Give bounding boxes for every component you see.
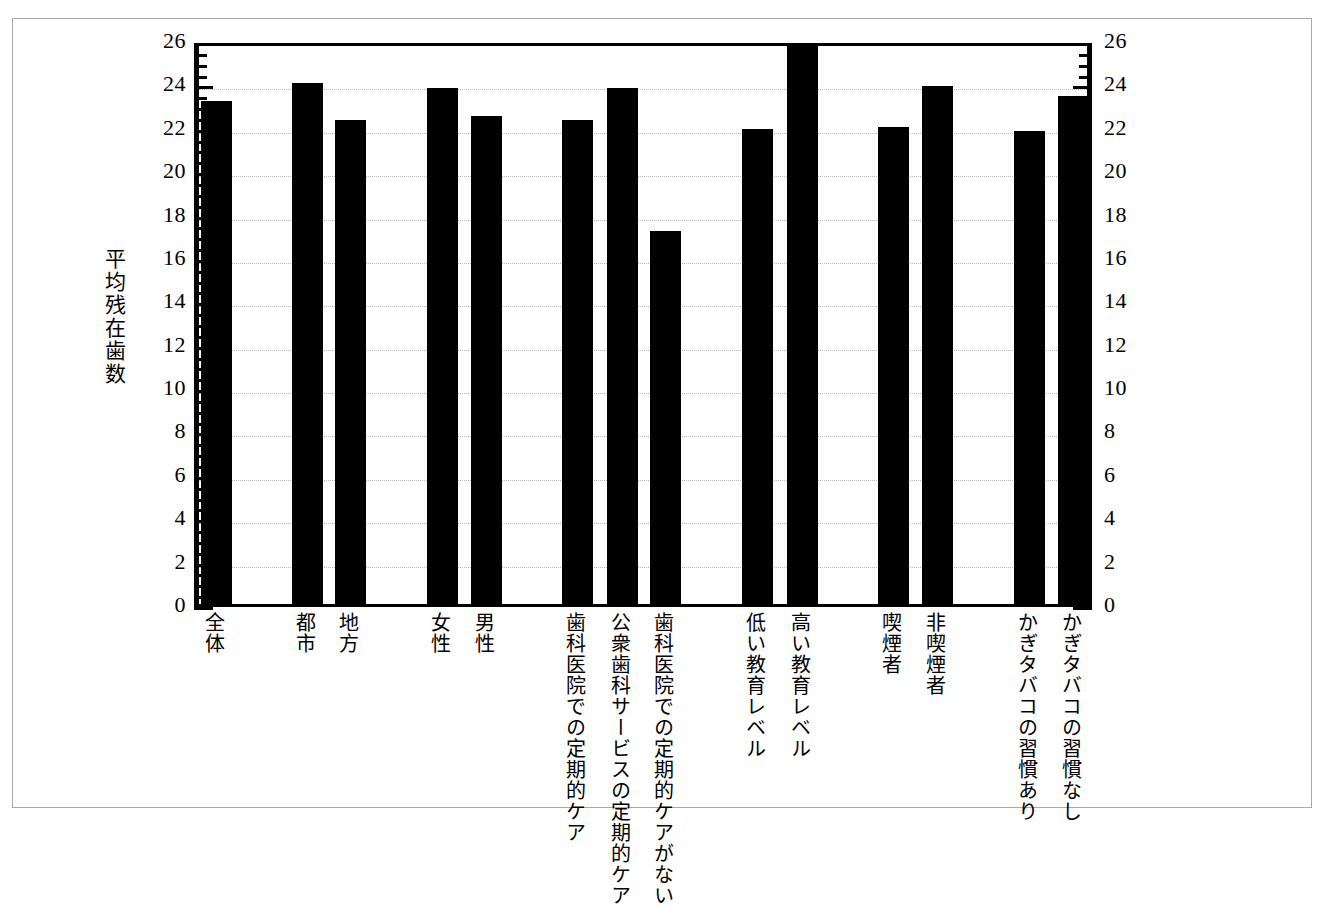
- axis-minor-tick: [1079, 54, 1092, 57]
- axis-major-tick: [194, 390, 213, 393]
- bar: [201, 101, 232, 604]
- axis-major-tick: [194, 130, 213, 133]
- axis-minor-tick: [1079, 574, 1092, 577]
- x-axis-category-label: 低い教育レベル: [739, 612, 765, 759]
- axis-minor-tick: [1079, 455, 1092, 458]
- axis-minor-tick: [194, 466, 207, 469]
- bar: [427, 88, 458, 604]
- axis-minor-tick: [1079, 368, 1092, 371]
- axis-major-tick: [194, 260, 213, 263]
- y-axis-tick-label: 18: [146, 204, 186, 226]
- axis-minor-tick: [194, 249, 207, 252]
- axis-minor-tick: [1079, 65, 1092, 68]
- axis-major-tick: [194, 520, 213, 523]
- axis-major-tick: [194, 173, 213, 176]
- axis-minor-tick: [1079, 227, 1092, 230]
- y-axis-tick-label: 10: [1104, 377, 1144, 399]
- x-axis-category-label: 非喫煙者: [919, 612, 945, 696]
- axis-minor-tick: [1079, 249, 1092, 252]
- axis-minor-tick: [1079, 412, 1092, 415]
- axis-minor-tick: [1079, 325, 1092, 328]
- axis-major-tick: [194, 347, 213, 350]
- axis-minor-tick: [194, 97, 207, 100]
- axis-minor-tick: [1079, 542, 1092, 545]
- axis-minor-tick: [194, 314, 207, 317]
- axis-major-tick: [1073, 347, 1092, 350]
- gridline: [199, 523, 1087, 524]
- axis-minor-tick: [1079, 379, 1092, 382]
- gridline: [199, 220, 1087, 221]
- x-axis-category-label: 高い教育レベル: [784, 612, 810, 759]
- axis-minor-tick: [1079, 423, 1092, 426]
- axis-minor-tick: [194, 379, 207, 382]
- y-axis-tick-label: 8: [146, 420, 186, 442]
- axis-minor-tick: [1079, 596, 1092, 599]
- bar: [922, 86, 953, 604]
- axis-major-tick: [1073, 607, 1092, 610]
- axis-minor-tick: [194, 412, 207, 415]
- gridline: [199, 567, 1087, 568]
- y-axis-tick-label: 14: [146, 290, 186, 312]
- axis-major-tick: [194, 303, 213, 306]
- axis-minor-tick: [1079, 585, 1092, 588]
- axis-minor-tick: [1079, 76, 1092, 79]
- axis-minor-tick: [194, 585, 207, 588]
- axis-minor-tick: [194, 54, 207, 57]
- axis-minor-tick: [1079, 314, 1092, 317]
- axis-major-tick: [1073, 477, 1092, 480]
- y-axis-tick-label: 8: [1104, 420, 1144, 442]
- axis-major-tick: [194, 217, 213, 220]
- axis-minor-tick: [194, 206, 207, 209]
- axis-minor-tick: [1079, 151, 1092, 154]
- axis-minor-tick: [194, 76, 207, 79]
- bar: [1014, 131, 1045, 604]
- axis-minor-tick: [1079, 499, 1092, 502]
- axis-minor-tick: [194, 368, 207, 371]
- gridline: [199, 89, 1087, 90]
- axis-minor-tick: [1079, 401, 1092, 404]
- y-axis-tick-label: 22: [146, 117, 186, 139]
- x-axis-category-label: 公衆歯科サービスの定期的ケア: [604, 612, 630, 906]
- bar: [607, 88, 638, 604]
- axis-minor-tick: [194, 509, 207, 512]
- axis-minor-tick: [1079, 271, 1092, 274]
- axis-major-tick: [1073, 86, 1092, 89]
- x-axis-category-label: 地方: [332, 612, 358, 654]
- axis-minor-tick: [194, 542, 207, 545]
- y-axis-tick-label: 24: [1104, 73, 1144, 95]
- y-axis-tick-label: 24: [146, 73, 186, 95]
- axis-major-tick: [1073, 260, 1092, 263]
- bar: [742, 129, 773, 604]
- axis-major-tick: [1073, 433, 1092, 436]
- bar: [471, 116, 502, 604]
- y-axis-tick-label: 14: [1104, 290, 1144, 312]
- axis-minor-tick: [194, 553, 207, 556]
- axis-minor-tick: [1079, 358, 1092, 361]
- gridline: [199, 306, 1087, 307]
- y-axis-tick-label: 16: [1104, 247, 1144, 269]
- axis-minor-tick: [194, 444, 207, 447]
- gridline: [199, 133, 1087, 134]
- axis-minor-tick: [194, 65, 207, 68]
- x-axis-category-label: 喫煙者: [875, 612, 901, 675]
- y-axis-tick-label: 20: [146, 160, 186, 182]
- axis-minor-tick: [194, 499, 207, 502]
- axis-minor-tick: [194, 423, 207, 426]
- bar: [650, 231, 681, 604]
- axis-minor-tick: [1079, 238, 1092, 241]
- axis-minor-tick: [194, 531, 207, 534]
- y-axis-tick-label: 20: [1104, 160, 1144, 182]
- axis-minor-tick: [1079, 184, 1092, 187]
- axis-major-tick: [194, 477, 213, 480]
- x-axis-category-label: かぎタバコの習慣あり: [1011, 612, 1037, 822]
- axis-major-tick: [1073, 43, 1092, 46]
- y-axis-tick-label: 12: [146, 334, 186, 356]
- axis-minor-tick: [194, 282, 207, 285]
- y-axis-tick-label: 26: [1104, 30, 1144, 52]
- axis-minor-tick: [194, 401, 207, 404]
- axis-minor-tick: [194, 184, 207, 187]
- axis-minor-tick: [1079, 119, 1092, 122]
- axis-major-tick: [1073, 217, 1092, 220]
- gridline: [199, 480, 1087, 481]
